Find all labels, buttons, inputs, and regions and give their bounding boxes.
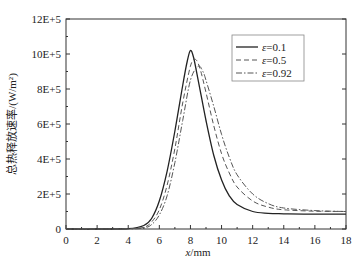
y-tick-label: 4E+5 — [37, 153, 61, 165]
line-chart: 02E+54E+56E+58E+510E+512E+5 024681012141… — [0, 0, 363, 272]
x-tick-label: 12 — [247, 234, 258, 246]
y-tick-label: 2E+5 — [37, 188, 61, 200]
y-tick-label: 0 — [56, 223, 62, 235]
x-axis-title: x/mm — [184, 246, 211, 258]
x-axis: 024681012141618 — [63, 225, 352, 246]
x-tick-label: 6 — [157, 234, 163, 246]
x-tick-label: 14 — [278, 234, 290, 246]
y-tick-label: 10E+5 — [32, 48, 62, 60]
x-tick-label: 0 — [63, 234, 69, 246]
legend: ε=0.1ε=0.5ε=0.92 — [232, 35, 304, 81]
legend-label: ε=0.1 — [262, 41, 286, 53]
y-tick-label: 6E+5 — [37, 118, 61, 130]
x-tick-label: 18 — [341, 234, 353, 246]
x-tick-label: 16 — [309, 234, 321, 246]
y-tick-label: 8E+5 — [37, 83, 61, 95]
x-tick-label: 8 — [188, 234, 194, 246]
series-line-2 — [66, 59, 346, 229]
legend-label: ε=0.92 — [262, 67, 292, 79]
legend-label: ε=0.5 — [262, 54, 287, 66]
y-tick-label: 12E+5 — [32, 13, 62, 25]
x-axis-unit: /mm — [190, 246, 211, 258]
y-axis-title: 总热释放速率/(W/m²) — [5, 73, 19, 175]
x-tick-label: 4 — [125, 234, 131, 246]
x-tick-label: 2 — [94, 234, 100, 246]
x-tick-label: 10 — [216, 234, 228, 246]
